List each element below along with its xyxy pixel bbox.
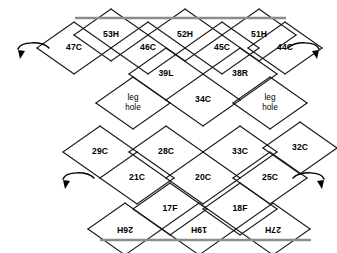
cell-label-c44: 44C [277, 42, 293, 52]
cell-label-c20: 20C [195, 172, 211, 182]
fold-arrows [18, 43, 324, 189]
label-line: 45C [214, 42, 230, 52]
cell-label-c52: 52H [177, 29, 193, 39]
fold-arrow-bottom-right [293, 173, 324, 189]
label-line: 53H [103, 29, 119, 39]
cell-label-c46: 46C [140, 42, 156, 52]
label-line: 44C [277, 42, 293, 52]
label-line: 26H [117, 225, 133, 235]
label-line: 21C [129, 172, 145, 182]
cell-label-c25: 25C [262, 172, 278, 182]
label-line: 28C [158, 146, 174, 156]
label-line: 51H [251, 29, 267, 39]
cell-label-c32: 32C [292, 142, 308, 152]
cell-label-lhL: leghole [125, 93, 141, 112]
cell-label-c17: 17F [163, 203, 178, 213]
label-line: leg [128, 93, 139, 102]
label-line: 33C [232, 146, 248, 156]
arrow-curve [293, 173, 324, 179]
label-line: 27H [265, 225, 281, 235]
label-line: leg [265, 93, 276, 102]
cell-label-c28: 28C [158, 146, 174, 156]
label-line: 25C [262, 172, 278, 182]
fold-arrow-bottom-left [63, 173, 94, 189]
cell-label-c53: 53H [103, 29, 119, 39]
arrow-head [63, 180, 70, 189]
cell-label-c29: 29C [92, 146, 108, 156]
label-line: 18F [233, 203, 248, 213]
label-line: 20C [195, 172, 211, 182]
arrow-curve [18, 43, 49, 49]
label-line: 29C [92, 146, 108, 156]
arrow-head [18, 50, 25, 59]
lattice-edge [270, 77, 307, 103]
diamond-lattice-net: 47C53H46C52H45C51H44C39L38Rleghole34Cleg… [0, 0, 337, 253]
lattice-edge [133, 77, 170, 103]
cell-label-c39: 39L [159, 68, 174, 78]
cell-label-c26: 26H [117, 225, 133, 235]
fold-arrow-top-left [18, 43, 49, 59]
label-line: hole [262, 103, 278, 112]
cell-label-c18: 18F [233, 203, 248, 213]
cell-label-c19: 19H [191, 225, 207, 235]
label-line: 46C [140, 42, 156, 52]
cell-label-c47: 47C [66, 42, 82, 52]
label-line: hole [125, 103, 141, 112]
label-line: 39L [159, 68, 174, 78]
cell-label-c51: 51H [251, 29, 267, 39]
label-line: 38R [232, 68, 249, 78]
label-line: 47C [66, 42, 82, 52]
cell-label-c27: 27H [265, 225, 281, 235]
label-line: 52H [177, 29, 193, 39]
cell-label-lhR: leghole [262, 93, 278, 112]
arrow-head [317, 180, 324, 189]
cell-label-c21: 21C [129, 172, 145, 182]
cell-label-c34: 34C [195, 94, 211, 104]
arrow-curve [63, 173, 94, 179]
cell-label-c33: 33C [232, 146, 248, 156]
label-line: 19H [191, 225, 207, 235]
cell-label-c38: 38R [232, 68, 249, 78]
label-line: 32C [292, 142, 308, 152]
label-line: 17F [163, 203, 178, 213]
label-line: 34C [195, 94, 211, 104]
cell-label-c45: 45C [214, 42, 230, 52]
